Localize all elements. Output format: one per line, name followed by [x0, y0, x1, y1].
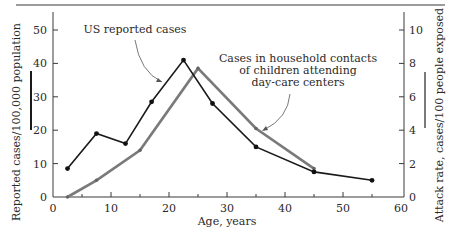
x-axis-label: Age, years: [197, 215, 257, 228]
annotation-arrowhead-household: [262, 126, 268, 131]
y-tick-label-right: 8: [409, 57, 416, 70]
data-point-us-reported-cases: [312, 170, 317, 175]
data-point-us-reported-cases: [123, 141, 128, 146]
annotation-us-reported-cases: US reported cases: [84, 23, 187, 36]
data-point-us-reported-cases: [181, 58, 186, 63]
annotation-arrow-us: [135, 40, 162, 82]
x-tick-label: 10: [104, 202, 118, 215]
x-tick-label: 30: [220, 202, 234, 215]
x-tick-label: 50: [336, 202, 350, 215]
annotation-arrowhead-us: [156, 78, 162, 82]
annotation-household-line-3: day-care centers: [251, 76, 344, 89]
y-tick-label-right: 0: [409, 191, 416, 204]
data-point-us-reported-cases: [370, 178, 375, 183]
y-tick-label-left: 20: [33, 124, 47, 137]
y-axis-label-left: Reported cases/100,000 population: [10, 23, 23, 221]
x-tick-label: 40: [278, 202, 292, 215]
annotation-arrow-household: [264, 94, 290, 130]
x-tick-label: 60: [394, 202, 408, 215]
y-tick-label-right: 6: [409, 91, 416, 104]
y-tick-label-left: 30: [33, 91, 47, 104]
x-tick-label: 20: [162, 202, 176, 215]
data-point-household-contacts: [196, 67, 200, 71]
data-point-us-reported-cases: [65, 166, 70, 171]
data-point-us-reported-cases: [210, 101, 215, 106]
y-tick-label-left: 10: [33, 158, 47, 171]
y-tick-label-right: 4: [409, 124, 416, 137]
data-point-household-contacts: [66, 195, 70, 199]
y-tick-label-left: 40: [33, 57, 47, 70]
y-tick-label-right: 2: [409, 158, 416, 171]
y-tick-label-right: 10: [409, 24, 423, 37]
data-point-household-contacts: [138, 148, 142, 152]
data-point-us-reported-cases: [94, 131, 99, 136]
chart: 0102030405060010203040500246810 Age, yea…: [0, 0, 452, 240]
data-point-us-reported-cases: [254, 145, 259, 150]
y-tick-label-left: 0: [40, 191, 47, 204]
data-point-household-contacts: [254, 127, 258, 131]
data-point-household-contacts: [95, 179, 99, 183]
y-axis-label-right: Attack rate, cases/100 people exposed: [433, 8, 446, 223]
data-point-us-reported-cases: [149, 99, 154, 104]
x-tick-label: 0: [50, 202, 57, 215]
y-tick-label-left: 50: [33, 24, 47, 37]
